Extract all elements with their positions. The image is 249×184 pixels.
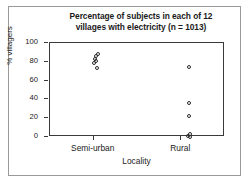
x-axis-label: Locality xyxy=(49,156,224,166)
chart-figure: Percentage of subjects in each of 12 vil… xyxy=(0,0,249,184)
data-point xyxy=(95,66,99,70)
data-point xyxy=(187,101,191,105)
x-axis-tick-label: Rural xyxy=(140,143,220,153)
y-axis-tick-label: 40 xyxy=(16,94,38,102)
y-axis-tick-mark xyxy=(44,98,48,99)
x-axis-tick-label: Semi-urban xyxy=(53,143,133,153)
y-axis-tick-mark xyxy=(44,42,48,43)
y-axis-tick-mark xyxy=(44,61,48,62)
data-point xyxy=(92,61,96,65)
data-point xyxy=(188,135,192,139)
y-axis-tick-mark xyxy=(44,117,48,118)
x-axis-tick-mark xyxy=(180,136,181,140)
chart-title: Percentage of subjects in each of 12 vil… xyxy=(46,11,236,33)
y-axis-tick-label: 0 xyxy=(16,132,38,140)
y-axis-tick-mark xyxy=(44,136,48,137)
data-point xyxy=(187,65,191,69)
y-axis-label: % villagers xyxy=(5,4,14,88)
y-axis-tick-mark xyxy=(44,80,48,81)
y-axis-tick-label: 100 xyxy=(16,38,38,46)
y-axis-tick-label: 60 xyxy=(16,76,38,84)
x-axis-tick-mark xyxy=(93,136,94,140)
chart-title-line-2: villages with electricity (n = 1013) xyxy=(46,22,236,33)
y-axis-tick-label: 80 xyxy=(16,57,38,65)
chart-title-line-1: Percentage of subjects in each of 12 xyxy=(46,11,236,22)
plot-area xyxy=(49,42,224,136)
data-point xyxy=(187,114,191,118)
y-axis-tick-label: 20 xyxy=(16,113,38,121)
